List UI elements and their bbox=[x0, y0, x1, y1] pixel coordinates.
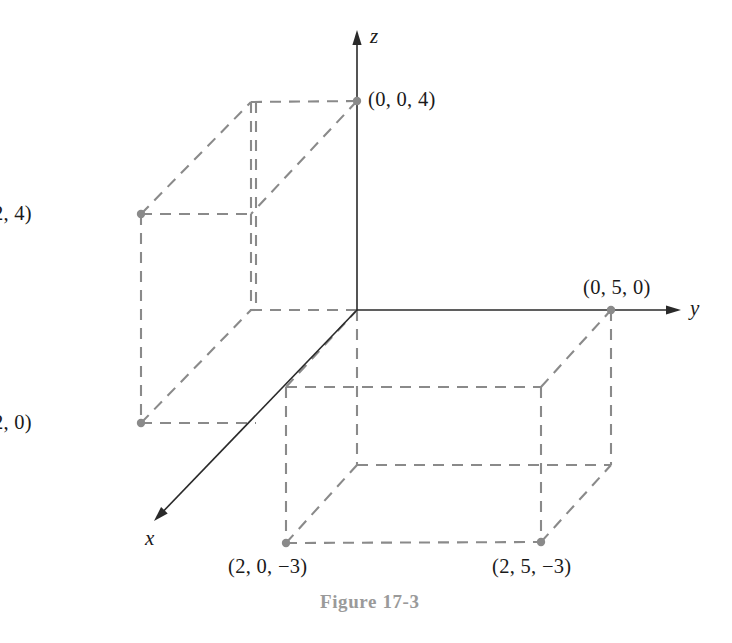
x-axis-line bbox=[161, 310, 357, 514]
point-3-n2-4-label: (3, −2, 4) bbox=[0, 203, 32, 224]
point-2-0-n3-label: (2, 0, −3) bbox=[228, 556, 307, 577]
box-right-quadrant-edge-8 bbox=[286, 542, 541, 543]
box-right-quadrant-edge-10 bbox=[541, 465, 611, 542]
box-left-quadrant-edge-2 bbox=[251, 101, 357, 214]
box-right-quadrant-edge-9 bbox=[286, 465, 357, 543]
box-left-quadrant-edge-8 bbox=[141, 310, 251, 423]
y-axis-label: y bbox=[690, 298, 699, 319]
point-3-n2-0-dot bbox=[137, 419, 145, 427]
point-3-n2-0-label: (3, −2, 0) bbox=[0, 412, 32, 433]
point-0-5-0-dot bbox=[607, 306, 615, 314]
point-0-5-0-label: (0, 5, 0) bbox=[583, 277, 651, 298]
box-left-quadrant-edge-0 bbox=[141, 102, 251, 214]
point-2-0-n3-dot bbox=[282, 539, 290, 547]
x-axis-label: x bbox=[145, 528, 154, 549]
y-axis-arrowhead bbox=[666, 305, 681, 314]
point-2-5-n3-dot bbox=[537, 538, 545, 546]
box-left-quadrant-edge-1 bbox=[251, 101, 357, 102]
point-0-0-4-dot bbox=[353, 97, 361, 105]
figure-17-3: (0, 0, 4)(3, −2, 4)(3, −2, 0)(0, 5, 0)(2… bbox=[0, 0, 732, 643]
box-right-quadrant-edge-2 bbox=[541, 310, 611, 387]
point-3-n2-4-dot bbox=[137, 210, 145, 218]
z-axis-arrowhead bbox=[352, 30, 361, 45]
box-left-edges bbox=[141, 101, 357, 423]
vertex-dots bbox=[137, 97, 615, 547]
figure-caption: Figure 17-3 bbox=[320, 592, 420, 611]
z-axis-label: z bbox=[370, 26, 378, 47]
coordinate-axes-diagram bbox=[0, 0, 732, 643]
point-2-5-n3-label: (2, 5, −3) bbox=[492, 556, 571, 577]
point-0-0-4-label: (0, 0, 4) bbox=[368, 89, 436, 110]
box-right-edges bbox=[286, 310, 611, 543]
